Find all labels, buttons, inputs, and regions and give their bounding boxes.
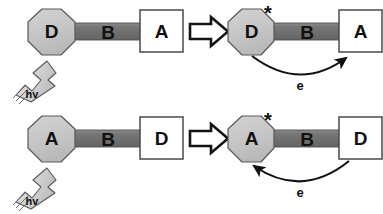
octagon-label-top-before: D xyxy=(45,21,59,42)
row-top-before-group: hv B D A xyxy=(13,9,183,104)
bridge-label-top-before: B xyxy=(101,22,115,43)
electron-arrow-bottom xyxy=(254,161,349,181)
bridge-label-bottom-before: B xyxy=(101,129,115,150)
box-label-bottom-after: D xyxy=(354,128,368,149)
electron-arrow-top xyxy=(252,56,346,75)
box-label-bottom-before: D xyxy=(155,128,169,149)
photon-label-top: hv xyxy=(26,88,40,100)
box-label-top-before: A xyxy=(155,21,169,42)
transition-arrow-top xyxy=(190,17,228,46)
diagram-canvas: hv B D A * B D A e hv xyxy=(0,0,383,214)
electron-label-top: e xyxy=(296,78,303,93)
row-bottom-before-group: hv B A D xyxy=(13,116,183,211)
bridge-label-top-after: B xyxy=(300,22,314,43)
row-top-after-group: * B D A e xyxy=(228,2,382,93)
bridge-label-bottom-after: B xyxy=(300,129,314,150)
row-bottom-after-group: * B A D e xyxy=(228,109,382,200)
electron-label-bottom: e xyxy=(296,185,303,200)
photon-label-bottom: hv xyxy=(26,195,40,207)
reaction-scheme-svg: hv B D A * B D A e hv xyxy=(0,0,383,214)
box-label-top-after: A xyxy=(354,21,368,42)
octagon-label-bottom-after: A xyxy=(245,128,259,149)
octagon-label-top-after: D xyxy=(245,21,259,42)
octagon-label-bottom-before: A xyxy=(45,128,59,149)
transition-arrow-bottom xyxy=(190,124,228,153)
